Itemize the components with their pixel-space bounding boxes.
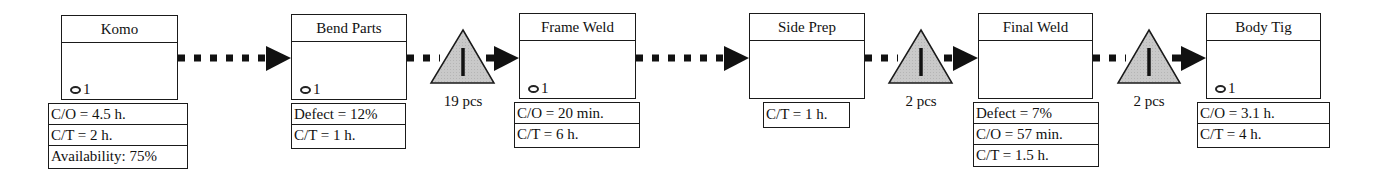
operator-count: 1 <box>528 80 549 96</box>
operator-count-value: 1 <box>541 80 549 96</box>
process-box-body-tig[interactable]: Body Tig 1 <box>1206 13 1321 99</box>
operator-count-value: 1 <box>313 81 321 97</box>
data-row-cycle-time: C/T = 2 h. <box>49 125 187 146</box>
data-row-availability: Availability: 75% <box>49 146 187 167</box>
arrowhead-icon <box>953 46 978 71</box>
push-arrow-komo-to-bend-parts <box>178 46 291 71</box>
data-row-changeover: C/O = 57 min. <box>974 124 1098 145</box>
process-title: Body Tig <box>1207 14 1320 41</box>
arrowhead-icon <box>266 46 291 71</box>
arrowhead-icon <box>494 46 519 71</box>
process-title: Frame Weld <box>520 14 635 41</box>
arrowhead-icon <box>724 46 749 71</box>
connector-layer <box>0 0 1377 181</box>
inventory-triangle-icon <box>431 30 494 83</box>
process-title: Final Weld <box>979 14 1092 41</box>
operator-icon <box>1215 85 1226 93</box>
operator-icon <box>528 85 539 93</box>
process-box-frame-weld[interactable]: Frame Weld 1 <box>519 13 636 99</box>
arrowhead-icon <box>1181 46 1206 71</box>
operator-count: 1 <box>1215 80 1236 96</box>
data-row-cycle-time: C/T = 1 h. <box>764 103 849 126</box>
operator-count-value: 1 <box>1228 80 1236 96</box>
inventory-label: 2 pcs <box>1114 93 1184 109</box>
push-arrow-frame-weld-to-side-prep <box>636 46 749 71</box>
data-box-frame-weld: C/O = 20 min. C/T = 6 h. <box>514 102 640 148</box>
data-row-cycle-time: C/T = 1.5 h. <box>974 145 1098 166</box>
operator-count: 1 <box>300 81 321 97</box>
process-title: Side Prep <box>750 14 864 41</box>
data-row-cycle-time: C/T = 4 h. <box>1198 124 1329 145</box>
operator-count-value: 1 <box>83 81 91 97</box>
process-box-final-weld[interactable]: Final Weld <box>978 13 1093 99</box>
data-row-defect: Defect = 12% <box>292 104 405 125</box>
operator-count: 1 <box>70 81 91 97</box>
data-row-changeover: C/O = 4.5 h. <box>49 104 187 125</box>
data-box-komo: C/O = 4.5 h. C/T = 2 h. Availability: 75… <box>48 103 188 169</box>
process-title: Bend Parts <box>292 15 406 42</box>
operator-icon <box>300 86 311 94</box>
data-box-bend-parts: Defect = 12% C/T = 1 h. <box>291 103 406 149</box>
inventory-triangle-icon <box>889 30 952 83</box>
process-box-side-prep[interactable]: Side Prep <box>749 13 865 99</box>
data-box-side-prep: C/T = 1 h. <box>763 102 850 128</box>
data-row-defect: Defect = 7% <box>974 103 1098 124</box>
inventory-label: 19 pcs <box>428 93 498 109</box>
data-box-final-weld: Defect = 7% C/O = 57 min. C/T = 1.5 h. <box>973 102 1099 167</box>
process-box-bend-parts[interactable]: Bend Parts 1 <box>291 14 407 100</box>
data-row-changeover: C/O = 3.1 h. <box>1198 103 1329 124</box>
value-stream-map: 19 pcs 2 pcs 2 pcs Komo 1 C/O = 4.5 h. C… <box>0 0 1377 181</box>
process-title: Komo <box>62 16 177 43</box>
process-box-komo[interactable]: Komo 1 <box>61 15 178 100</box>
data-row-changeover: C/O = 20 min. <box>515 103 639 124</box>
inventory-label: 2 pcs <box>886 93 956 109</box>
data-box-body-tig: C/O = 3.1 h. C/T = 4 h. <box>1197 102 1330 148</box>
data-row-cycle-time: C/T = 1 h. <box>292 125 405 146</box>
inventory-triangle-icon <box>1118 30 1180 83</box>
data-row-cycle-time: C/T = 6 h. <box>515 124 639 145</box>
operator-icon <box>70 86 81 94</box>
